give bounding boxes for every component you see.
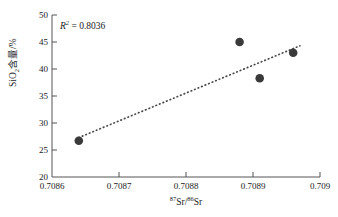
x-tick-label: 0.7087	[92, 182, 146, 191]
r-squared-annotation: R2 = 0.8036	[60, 20, 105, 32]
chart-figure: R2 = 0.8036 50 45 40 35 30 25 20 0.7086 …	[0, 0, 338, 217]
y-tick-label: 30	[22, 119, 48, 128]
x-tick-label: 0.7088	[159, 182, 213, 191]
data-point	[75, 137, 84, 146]
y-axis-title-subscript: 2	[13, 69, 20, 72]
x-axis-title-sr-2: Sr	[194, 197, 202, 207]
data-point	[255, 74, 264, 83]
x-axis-title-sr-1: Sr/	[176, 197, 187, 207]
x-tick-label: 0.7086	[25, 182, 79, 191]
data-point	[289, 49, 298, 58]
trendline	[79, 46, 300, 138]
y-tick-label: 25	[22, 146, 48, 155]
r-squared-equals: =	[69, 21, 79, 31]
y-axis-ticks	[52, 15, 57, 150]
x-axis-title: 87Sr/86Sr	[52, 196, 320, 208]
y-tick-label: 40	[22, 65, 48, 74]
r-squared-value: 0.8036	[79, 21, 105, 31]
x-tick-label: 0.709	[293, 182, 338, 191]
y-tick-label: 35	[22, 92, 48, 101]
data-point-group	[75, 38, 298, 145]
data-point	[235, 38, 244, 47]
y-axis-title-base: SiO	[8, 72, 18, 87]
y-axis-title-suffix: 含量/%	[8, 38, 18, 69]
y-tick-label: 50	[22, 11, 48, 20]
y-tick-label: 45	[22, 38, 48, 47]
y-axis-title: SiO2含量/%	[9, 23, 20, 103]
x-tick-label: 0.7089	[226, 182, 280, 191]
x-axis-ticks	[119, 172, 320, 177]
